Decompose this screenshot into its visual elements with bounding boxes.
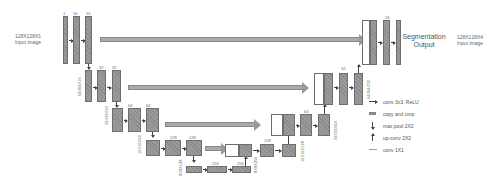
feature-map-block [73,16,80,64]
feature-map-block [165,140,181,156]
conv-arrow [142,120,145,121]
channel-label: 32 [341,66,345,71]
feature-map-block [112,70,121,102]
conv-arrow [124,120,127,121]
feature-map-block [370,20,377,65]
feature-map-block [354,73,363,105]
maxpool-arrow [152,132,153,137]
feature-map-block [85,70,92,102]
copy-crop-arrow [165,122,255,127]
size-label: 32X32X32 [104,106,109,125]
feature-map-block [339,73,348,105]
conv-arrow [391,42,395,43]
legend-item: max pool 2X2 [383,123,414,129]
legend-item: copy and crop [383,111,414,117]
maxpool-arrow [193,156,194,162]
output-caption: Input image [446,40,494,46]
feature-map-block [324,73,333,105]
feature-map-block [283,114,295,136]
legend-item: conv 1X1 [383,147,404,153]
conv-arrow [107,87,111,88]
feature-map-block [300,114,312,136]
size-label: 8X8X256 [253,157,258,173]
conv-arrow [349,87,353,88]
input-caption: Input image [8,39,48,45]
upconv-arrow [245,157,246,166]
conv-arrow [296,125,299,126]
conv-arrow [378,42,382,43]
feature-map-block [146,108,159,132]
conv-arrow [275,150,281,151]
copy-crop-arrow [100,37,360,42]
copy-crop-arrow [205,146,222,151]
feature-map-block [128,108,141,132]
size-label: 8X8X128 [178,160,183,176]
output-title-line2: Output [400,41,448,49]
maxpool-arrow [88,64,89,69]
copy-crop-arrow [128,85,303,90]
upconv-arrow [358,65,359,73]
legend-item: conv 3x3, ReLU [383,99,419,105]
feature-map-block [97,70,106,102]
feature-map-block [282,144,296,157]
feature-map-block [239,144,252,157]
feature-map-block [207,166,227,173]
feature-map-block [260,144,274,157]
size-label: 16X16X128 [300,141,305,162]
copied-feature-block [314,73,324,105]
conv-arrow [253,150,259,151]
feature-map-block [146,140,160,156]
feature-map-block [186,140,202,156]
feature-map-block [85,16,92,64]
maxpool-arrow [116,102,117,107]
conv-arrow [334,87,338,88]
size-label: 64X64X32 [366,80,371,99]
feature-map-block [112,108,123,132]
upconv-arrow [324,105,325,114]
legend-item: up-conv 2X2 [383,135,411,141]
feature-map-block [318,114,330,136]
feature-map-block [383,20,390,65]
copied-feature-block [225,144,239,157]
copied-feature-block [362,20,370,65]
size-label: 32X32X64 [333,121,338,140]
copied-feature-block [271,114,283,136]
size-label: 16X16X64 [137,135,142,154]
output-title: Segmentation [400,33,448,41]
channel-label: 128 [264,138,271,143]
feature-map-block [232,166,251,173]
feature-map-block [186,166,202,173]
conv-arrow [313,125,317,126]
size-label: 64X64X16 [77,77,82,96]
feature-map-block [63,16,68,64]
